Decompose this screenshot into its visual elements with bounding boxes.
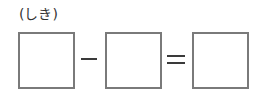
formula-label: (しき) bbox=[19, 5, 58, 23]
answer-box-second-operand[interactable] bbox=[105, 32, 162, 89]
minus-sign bbox=[81, 58, 97, 60]
minus-bar bbox=[81, 58, 97, 60]
answer-box-result[interactable] bbox=[192, 32, 249, 89]
answer-box-first-operand[interactable] bbox=[18, 32, 75, 89]
equals-sign bbox=[167, 55, 185, 64]
equals-top-bar bbox=[167, 55, 185, 57]
equals-bottom-bar bbox=[167, 62, 185, 64]
